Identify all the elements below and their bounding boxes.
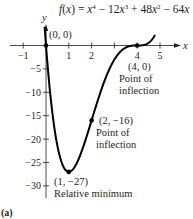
y-tick-label: −5 [30, 63, 41, 74]
label-point-4-0: (4, 0) [128, 61, 151, 73]
x-tick-label: 4 [135, 50, 140, 61]
key-points [44, 43, 140, 174]
label-inflection-4-line1: Point of [119, 73, 153, 84]
label-point-1-27: (1, −27) [54, 176, 88, 188]
label-relative-minimum: Relative minimum [54, 188, 132, 199]
function-graph: f(x) = x4 − 12x3 + 48x2 − 64x x y −1 1 2… [0, 0, 193, 219]
label-inflection-4-line2: inflection [119, 85, 160, 96]
x-tick-label: 5 [158, 50, 163, 61]
label-point-2-16: (2, −16) [99, 115, 133, 127]
x-axis-label: x [182, 40, 188, 51]
label-inflection-2-line1: Point of [96, 127, 130, 138]
point-origin [44, 43, 49, 48]
x-axis: x [10, 40, 188, 51]
y-tick-label: −30 [25, 180, 41, 191]
y-tick-label: −20 [25, 134, 41, 145]
x-tick-label: 2 [89, 50, 94, 61]
x-axis-arrow-icon [174, 43, 181, 47]
point-inflection-4 [135, 43, 140, 48]
x-tick-label: −1 [18, 50, 29, 61]
y-axis-label: y [41, 12, 47, 23]
label-origin: (0, 0) [49, 29, 72, 41]
panel-label: (a) [1, 207, 13, 219]
y-ticks: −5 −10 −15 −20 −25 −30 [25, 63, 49, 191]
point-relative-minimum [67, 170, 72, 175]
y-tick-label: −25 [25, 157, 41, 168]
y-tick-label: −10 [25, 87, 41, 98]
label-inflection-2-line2: inflection [96, 139, 137, 150]
point-inflection-2 [89, 118, 94, 123]
function-title: f(x) = x4 − 12x3 + 48x2 − 64x [59, 3, 190, 16]
function-curve [45, 27, 155, 172]
y-tick-label: −15 [25, 110, 41, 121]
x-tick-label: 1 [66, 50, 71, 61]
